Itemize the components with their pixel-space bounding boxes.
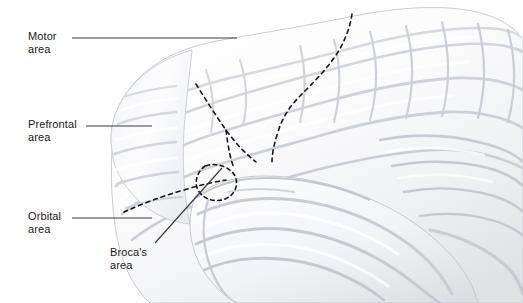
brain-diagram-figure: Motor area Prefrontal area Orbital area … [0,0,523,303]
label-motor-area: Motor area [28,30,57,56]
label-prefrontal-area: Prefrontal area [28,118,77,144]
label-brocas-area: Broca's area [110,246,147,272]
label-orbital-area: Orbital area [28,210,61,236]
brain-illustration [0,0,523,303]
